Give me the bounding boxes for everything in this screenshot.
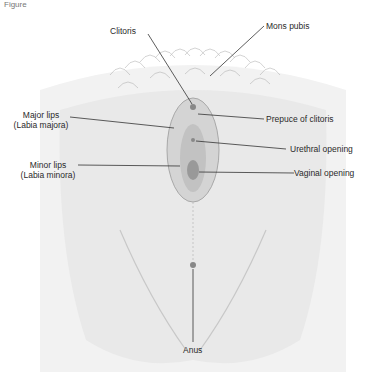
label-prepuce: Prepuce of clitoris — [266, 114, 334, 124]
label-clitoris: Clitoris — [110, 26, 136, 36]
label-mons-pubis: Mons pubis — [266, 21, 309, 31]
vaginal-marker — [187, 160, 199, 180]
label-major-lips-latin: (Labia majora) — [12, 120, 70, 130]
label-minor-lips: Minor lips (Labia minora) — [18, 160, 78, 180]
anatomy-figure: Figure — [0, 0, 386, 372]
label-minor-lips-latin: (Labia minora) — [18, 170, 78, 180]
label-minor-lips-common: Minor lips — [18, 160, 78, 170]
diagram-illustration — [0, 0, 386, 372]
label-urethral-opening: Urethral opening — [290, 144, 353, 154]
clitoris-marker — [190, 104, 196, 110]
urethral-marker — [191, 138, 195, 142]
label-vaginal-opening: Vaginal opening — [294, 168, 354, 178]
label-major-lips-common: Major lips — [12, 110, 70, 120]
anus-marker — [190, 262, 196, 268]
label-major-lips: Major lips (Labia majora) — [12, 110, 70, 130]
label-anus: Anus — [183, 345, 202, 355]
